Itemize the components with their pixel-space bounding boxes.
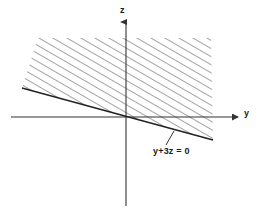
figure-container: z y y+3z = 0	[0, 0, 259, 222]
y-axis-label: y	[244, 109, 249, 118]
boundary-line-equation-label: y+3z = 0	[153, 146, 190, 156]
leader-line	[166, 131, 174, 145]
hatched-half-plane	[22, 38, 213, 140]
z-axis-label: z	[120, 6, 125, 15]
figure-svg	[0, 0, 259, 222]
